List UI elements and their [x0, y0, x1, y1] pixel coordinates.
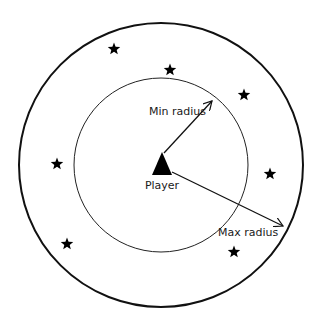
- min-radius-label: Min radius: [149, 105, 206, 118]
- star-icon: [61, 238, 73, 250]
- star-icon: [238, 89, 250, 101]
- star-icon: [228, 246, 240, 258]
- star-icon: [264, 168, 276, 180]
- player-label: Player: [145, 179, 180, 192]
- player-triangle-icon: [152, 152, 172, 175]
- star-icon: [164, 64, 176, 76]
- spawn-radius-diagram: Player Min radius Max radius: [0, 0, 318, 326]
- star-icon: [108, 43, 120, 55]
- star-icon: [51, 158, 63, 170]
- max-radius-label: Max radius: [218, 226, 279, 239]
- max-radius-arrow: [172, 172, 283, 226]
